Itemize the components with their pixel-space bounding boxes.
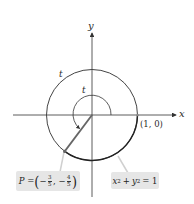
left-paren: ( <box>34 173 39 189</box>
y-sign: − <box>58 176 65 186</box>
x-denominator: 5 <box>48 182 52 188</box>
right-paren: ) <box>72 173 77 189</box>
point-p-label-box: P = ( − 3 5 , − 4 5 ) <box>16 171 80 191</box>
point-1-0-label: (1, 0) <box>140 120 163 129</box>
eq-y-exp: 2 <box>137 178 141 184</box>
y-fraction: 4 5 <box>67 175 72 187</box>
angle-label: t <box>82 86 86 95</box>
radius-to-p <box>65 115 92 151</box>
circle-equation-box: x2 + y2 = 1 <box>111 172 159 189</box>
arc-length-label: t <box>59 70 63 79</box>
y-axis-label: y <box>88 21 94 31</box>
point-1-0-dot <box>136 114 138 116</box>
x-fraction: 3 5 <box>48 175 53 187</box>
x-axis-label: x <box>179 109 185 119</box>
eq-plus: + <box>123 176 130 186</box>
y-denominator: 5 <box>67 182 71 188</box>
leader-line-p <box>60 152 64 172</box>
x-sign: − <box>39 176 46 186</box>
leader-line-equation <box>118 156 128 173</box>
eq-x-exp: 2 <box>117 178 121 184</box>
point-p-prefix: P = <box>19 176 35 186</box>
eq-equals-one: = 1 <box>142 176 157 186</box>
point-p-dot <box>63 150 66 153</box>
